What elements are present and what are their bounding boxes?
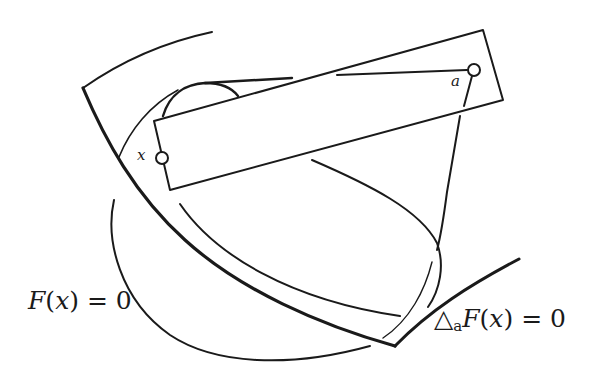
dome-tangent-line <box>205 78 292 83</box>
point-x-label: x <box>137 146 145 164</box>
loop-curve <box>312 160 441 307</box>
diagram-canvas: x a F(x) = 0 △aF(x) = 0 <box>0 0 614 385</box>
func-f: F <box>462 304 479 333</box>
outer-top-arc <box>83 32 212 88</box>
equation-surface-delta-f: △aF(x) = 0 <box>434 304 566 333</box>
delta-symbol: △ <box>434 304 453 333</box>
inner-middle-curve <box>180 204 400 316</box>
open-paren: ( <box>480 304 490 333</box>
equals-zero: = 0 <box>79 286 132 315</box>
close-paren: ) <box>503 304 513 333</box>
point-a-circle <box>468 64 480 76</box>
equals-zero: = 0 <box>513 304 566 333</box>
point-x-circle <box>156 152 168 164</box>
var-x: x <box>55 286 69 315</box>
var-x: x <box>489 304 503 333</box>
open-paren: ( <box>45 286 55 315</box>
vertex-thin-curve <box>383 262 432 338</box>
delta-subscript: a <box>453 317 462 335</box>
equation-surface-f: F(x) = 0 <box>28 286 132 315</box>
point-a-label: a <box>451 72 460 90</box>
func-f: F <box>28 286 45 315</box>
close-paren: ) <box>69 286 79 315</box>
